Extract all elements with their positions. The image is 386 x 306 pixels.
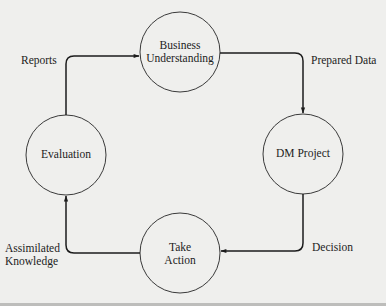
- edge-dm-project-to-take-action: [221, 194, 303, 251]
- edge-label-line: Knowledge: [5, 255, 60, 268]
- edge-label-line: Assimilated: [5, 242, 60, 255]
- node-label-line: Action: [140, 254, 220, 267]
- node-label-line: Take: [140, 241, 220, 254]
- node-label-business-understanding: Business Understanding: [140, 39, 220, 65]
- node-label-line: Evaluation: [26, 148, 106, 161]
- edge-take-action-to-evaluation: [66, 196, 140, 253]
- edge-label-reports: Reports: [21, 54, 57, 67]
- node-label-evaluation: Evaluation: [26, 148, 106, 161]
- edge-label-prepared-data: Prepared Data: [311, 54, 376, 67]
- node-label-line: Business: [140, 39, 220, 52]
- edge-evaluation-to-business: [66, 56, 139, 115]
- edge-label-assimilated-knowledge: Assimilated Knowledge: [5, 242, 60, 268]
- node-label-take-action: Take Action: [140, 241, 220, 267]
- node-label-line: DM Project: [263, 147, 343, 160]
- node-label-dm-project: DM Project: [263, 147, 343, 160]
- edge-label-decision: Decision: [312, 241, 353, 254]
- edge-business-to-dm-project: [220, 53, 303, 113]
- node-label-line: Understanding: [140, 52, 220, 65]
